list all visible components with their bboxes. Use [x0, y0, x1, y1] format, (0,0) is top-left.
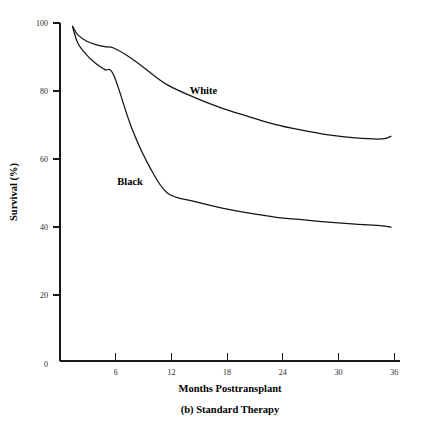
x-tick-label-12: 12 [167, 368, 175, 377]
series-label-black: Black [117, 176, 143, 187]
y-tick-label-80: 80 [40, 87, 48, 96]
x-tick-label-30: 30 [335, 368, 343, 377]
x-tick-label-24: 24 [279, 368, 287, 377]
x-tick-label-6: 6 [114, 368, 118, 377]
y-tick-label-40: 40 [40, 223, 48, 232]
x-axis-ticks [116, 353, 395, 361]
x-tick-label-36: 36 [390, 368, 398, 377]
y-axis-ticks [53, 23, 60, 295]
y-axis-title: Survival (%) [8, 162, 20, 221]
figure-caption: (b) Standard Therapy [181, 404, 280, 416]
survival-curve-white [73, 26, 392, 139]
series-label-white: White [190, 85, 218, 96]
x-tick-label-18: 18 [223, 368, 231, 377]
survival-plot-svg: 100 80 60 40 20 0 6 12 18 24 30 36 White… [0, 0, 422, 427]
x-axis-title: Months Posttransplant [179, 383, 282, 394]
survival-curve-figure: 100 80 60 40 20 0 6 12 18 24 30 36 White… [0, 0, 422, 427]
y-tick-label-20: 20 [40, 291, 48, 300]
y-tick-label-100: 100 [36, 19, 48, 28]
y-tick-label-0: 0 [44, 360, 48, 369]
y-tick-label-60: 60 [40, 155, 48, 164]
survival-curve-black [73, 26, 392, 227]
